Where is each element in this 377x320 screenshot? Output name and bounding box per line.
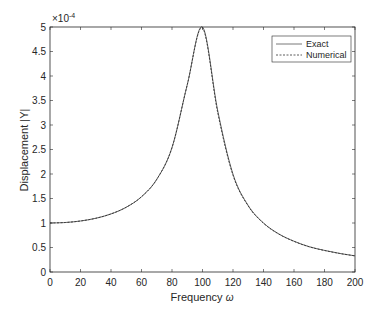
legend-label-numerical: Numerical — [306, 50, 347, 60]
x-tick-label: 180 — [316, 277, 333, 288]
y-tick-label: 4.5 — [32, 46, 46, 57]
x-tick-label: 100 — [194, 277, 211, 288]
x-tick-label: 40 — [105, 277, 117, 288]
y-tick-label: 0.5 — [32, 242, 46, 253]
y-tick-label: 3 — [40, 120, 46, 131]
x-tick-label: 80 — [166, 277, 178, 288]
y-tick-label: 4 — [40, 71, 46, 82]
y-tick-label: 3.5 — [32, 95, 46, 106]
y-tick-label: 0 — [40, 267, 46, 278]
x-tick-label: 60 — [136, 277, 148, 288]
y-tick-label: 1 — [40, 218, 46, 229]
y-tick-label: 5 — [40, 22, 46, 33]
plot-area — [50, 27, 355, 272]
y-exponent-label: ×10-4 — [52, 12, 75, 24]
x-tick-label: 140 — [255, 277, 272, 288]
x-tick-label: 160 — [286, 277, 303, 288]
x-axis-label: Frequency ω — [171, 291, 234, 303]
legend-label-exact: Exact — [306, 39, 329, 49]
x-tick-label: 20 — [75, 277, 87, 288]
y-tick-label: 1.5 — [32, 193, 46, 204]
x-tick-label: 200 — [347, 277, 364, 288]
legend: Exact Numerical — [272, 36, 351, 62]
y-tick-label: 2 — [40, 169, 46, 180]
frequency-response-chart: 020406080100120140160180200 00.511.522.5… — [0, 0, 377, 320]
y-tick-label: 2.5 — [32, 144, 46, 155]
x-tick-label: 120 — [225, 277, 242, 288]
x-tick-label: 0 — [47, 277, 53, 288]
y-axis-label: Displacement |Y| — [18, 109, 30, 192]
